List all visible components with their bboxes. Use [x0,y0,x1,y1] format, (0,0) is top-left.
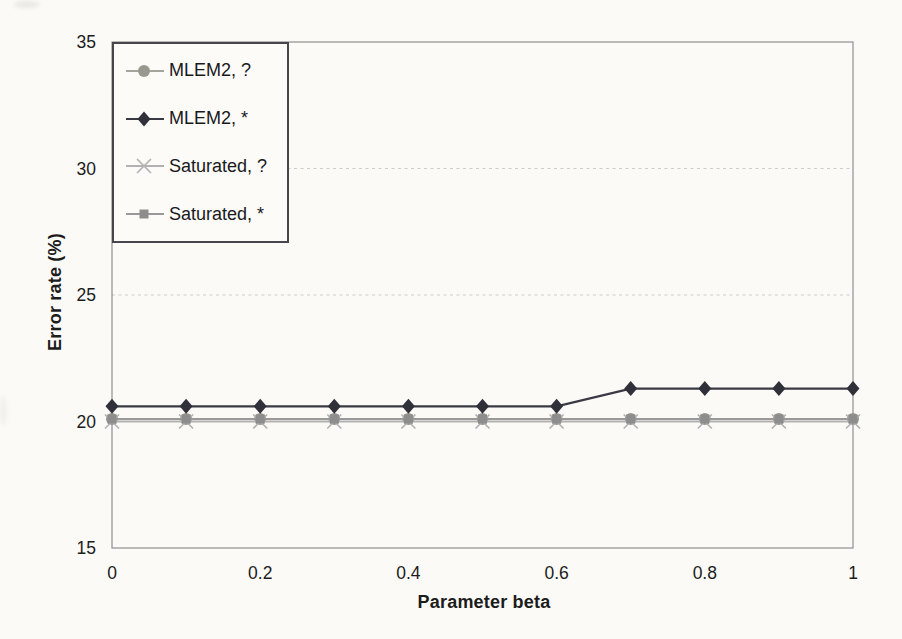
y-tick-label-35: 35 [77,32,96,52]
legend-item-mlem2: MLEM2, * [124,108,287,129]
legend-label: MLEM2, * [169,108,248,129]
x-tick-label-0.8: 0.8 [693,563,717,583]
series-saturated-square-marker [552,414,561,423]
mlem2-marker-glyph [138,111,151,126]
series-mlem2-diamond-marker [550,399,563,414]
series-saturated-square-marker [256,414,265,423]
saturated-x-legend-icon [124,156,166,176]
series-saturated-square-marker [478,414,487,423]
legend-item-saturated: Saturated, ? [124,156,287,177]
scanned-chart-figure: 00.20.40.60.811520253035 Error rate (%) … [0,0,902,639]
x-tick-label-0.6: 0.6 [544,563,568,583]
series-saturated-square-marker [330,414,339,423]
y-tick-label-30: 30 [77,159,97,179]
legend-item-mlem2: MLEM2, ? [124,60,287,81]
legend-item-saturated: Saturated, * [124,204,287,225]
series-mlem2-diamond-marker [328,399,341,414]
x-tick-label-0.2: 0.2 [248,563,272,583]
y-tick-label-20: 20 [77,412,97,432]
series-mlem2-diamond-marker [106,399,119,414]
series-mlem2-diamond-marker [402,399,415,414]
series-saturated-square-marker [774,414,783,423]
series-mlem2-diamond-marker [180,399,193,414]
mlem2-circle-legend-icon [124,61,166,81]
series-mlem2-diamond-marker [698,381,711,396]
series-saturated-square-marker [108,414,117,423]
y-tick-label-25: 25 [77,285,96,305]
y-axis-title: Error rate (%) [45,233,66,351]
series-saturated-square-marker [849,414,858,423]
saturated-marker-glyph [140,210,149,219]
series-saturated-square-marker [700,414,709,423]
series-mlem2-diamond-marker [254,399,267,414]
series-saturated-square-marker [404,414,413,423]
x-tick-label-0: 0 [107,563,117,583]
x-axis-title: Parameter beta [418,592,551,613]
legend-label: Saturated, ? [169,156,267,177]
series-saturated-square-marker [626,414,635,423]
legend-label: Saturated, * [169,204,264,225]
x-tick-label-0.4: 0.4 [396,563,421,583]
legend: MLEM2, ?MLEM2, *Saturated, ?Saturated, * [112,42,289,243]
mlem2-diamond-legend-icon [124,109,166,129]
mlem2-marker-glyph [138,65,150,77]
series-mlem2-diamond-marker [624,381,637,396]
series-mlem2-diamond-marker [847,381,860,396]
series-saturated-square-marker [182,414,191,423]
x-tick-label-1: 1 [848,563,858,583]
legend-label: MLEM2, ? [169,60,251,81]
series-mlem2-diamond-marker [772,381,785,396]
y-tick-label-15: 15 [77,538,96,558]
saturated-square-legend-icon [124,204,166,224]
series-mlem2-diamond-marker [476,399,489,414]
